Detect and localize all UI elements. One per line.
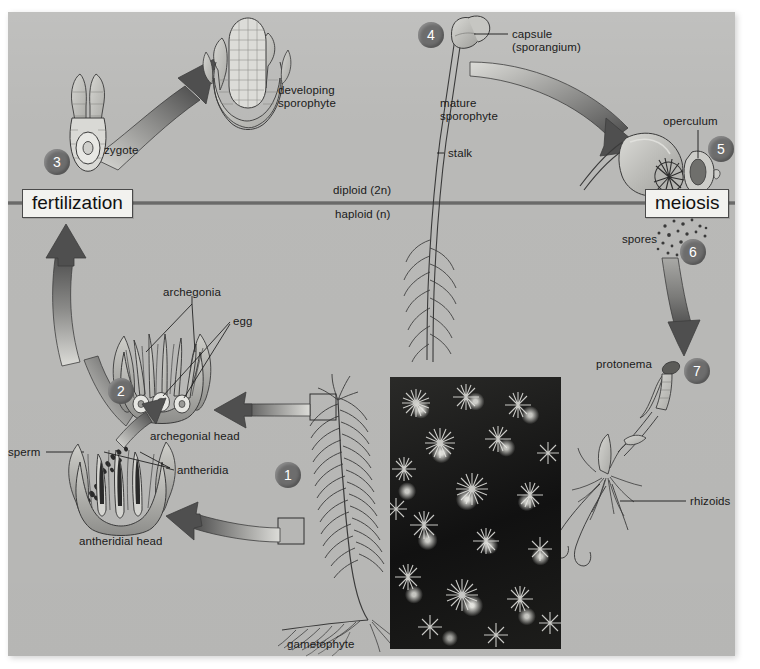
label-developing-sporophyte: developing sporophyte <box>278 84 336 110</box>
fertilization-box[interactable]: fertilization <box>22 189 133 218</box>
step-number-3[interactable]: 3 <box>44 149 70 175</box>
haploid-label: haploid (n) <box>335 208 390 221</box>
moss-colony-photograph <box>390 377 561 649</box>
callout-box-archegonial <box>310 394 336 420</box>
label-rhizoids: rhizoids <box>690 495 730 508</box>
diploid-label: diploid (2n) <box>333 184 391 197</box>
meiosis-box[interactable]: meiosis <box>645 189 729 218</box>
label-antheridia: antheridia <box>177 464 229 477</box>
capsule-operculum-drawing <box>580 130 720 196</box>
label-capsule-sporangium: capsule (sporangium) <box>512 28 581 54</box>
label-egg: egg <box>233 315 253 328</box>
zygote-archegonium-drawing <box>70 74 106 171</box>
protonema-drawing <box>553 359 686 566</box>
label-spores: spores <box>622 233 657 246</box>
developing-sporophyte-drawing <box>203 18 291 130</box>
label-protonema: protonema <box>596 358 652 371</box>
label-archegonia: archegonia <box>163 286 221 299</box>
label-zygote: zygote <box>104 144 138 157</box>
label-antheridial-head: antheridial head <box>79 535 162 548</box>
diagram-canvas: fertilization meiosis diploid (2n) haplo… <box>0 0 760 669</box>
arrow-gametophyte-to-archegonial-head <box>214 392 310 428</box>
label-sperm: sperm <box>8 446 40 459</box>
diagram-drawing-layer <box>0 0 760 669</box>
step-number-6[interactable]: 6 <box>680 239 706 265</box>
callout-box-antheridial <box>278 518 304 544</box>
arrow-spores-to-protonema <box>662 258 700 356</box>
arrow-gametophyte-to-antheridial-head <box>166 502 280 542</box>
step-number-4[interactable]: 4 <box>418 22 444 48</box>
label-gametophyte: gametophyte <box>287 638 355 651</box>
archegonial-head-drawing <box>113 296 230 424</box>
step-number-2[interactable]: 2 <box>108 378 134 404</box>
label-operculum: operculum <box>663 115 718 128</box>
step-number-7[interactable]: 7 <box>684 358 710 384</box>
antheridial-head-drawing <box>69 442 176 536</box>
step-number-5[interactable]: 5 <box>708 136 734 162</box>
photo-moss-stars <box>390 377 561 649</box>
label-mature-sporophyte: mature sporophyte <box>440 97 498 123</box>
step-number-1[interactable]: 1 <box>275 462 301 488</box>
label-stalk: stalk <box>448 147 472 160</box>
label-archegonial-head: archegonial head <box>150 430 240 443</box>
